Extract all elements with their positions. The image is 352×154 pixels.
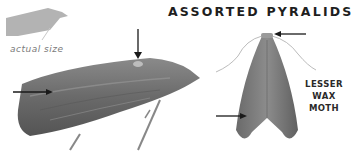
species-label-line2: WAX MOTH: [296, 90, 352, 114]
actual-size-caption: actual size: [10, 44, 64, 54]
species-label-line1: LESSER: [296, 78, 352, 90]
species-label: LESSER WAX MOTH: [296, 78, 352, 114]
moth-silhouette-icon: [6, 8, 68, 40]
figure-canvas: [0, 0, 352, 154]
figure-title: ASSORTED PYRALIDS: [168, 4, 352, 19]
arrow-left-icon: [274, 31, 306, 37]
arrow-down-icon: [134, 29, 142, 59]
moth-side-view-illustration: [18, 58, 200, 150]
